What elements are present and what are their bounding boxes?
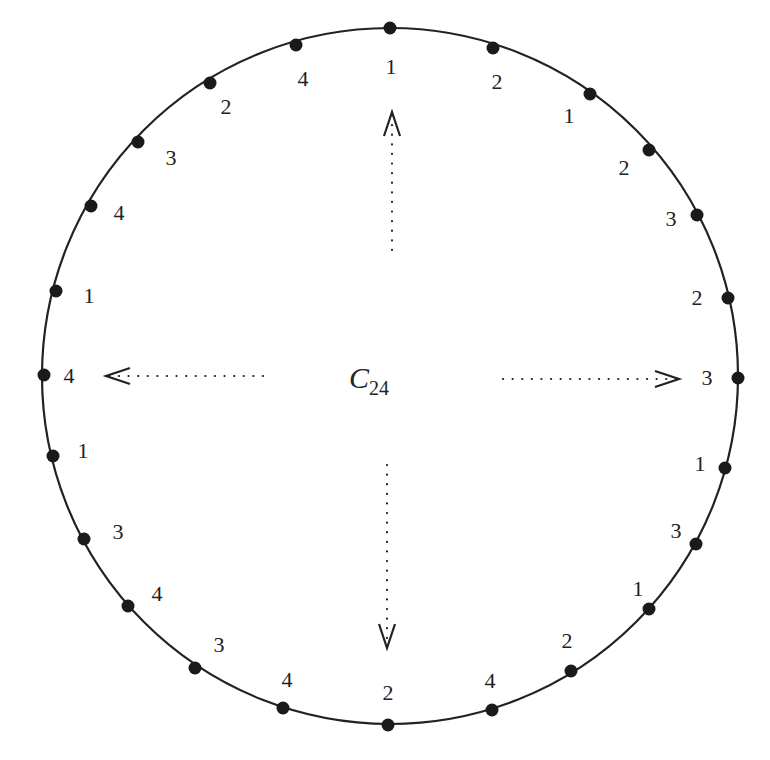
vertex-dot [132,136,145,149]
vertex-dot [277,702,290,715]
vertex-label: 3 [666,208,677,230]
vertex-label: 2 [619,157,630,179]
vertex-dot [204,77,217,90]
vertex-dot [486,704,499,717]
vertex-label: 4 [64,365,75,387]
vertex-dot [719,462,732,475]
vertex-label: 4 [485,670,496,692]
vertex-dot [690,538,703,551]
vertex-label: 4 [282,669,293,691]
vertex-dot [643,144,656,157]
vertex-label: 3 [671,520,682,542]
vertex-dot [382,719,395,732]
vertex-label: 4 [114,202,125,224]
arrow-up [384,112,400,250]
vertex-label: 2 [692,287,703,309]
vertex-dot [290,39,303,52]
vertex-label: 3 [166,147,177,169]
diagram-canvas: 121232313124243431414324 C24 [0,0,770,760]
arrows-group [106,112,679,648]
graph-title-main: C [349,361,369,394]
cycle-circle [42,28,738,724]
vertex-dot [47,450,60,463]
graph-title: C24 [349,361,389,395]
vertex-dot [78,533,91,546]
vertex-label: 4 [152,583,163,605]
vertex-label: 3 [214,634,225,656]
vertex-dot [584,88,597,101]
vertex-label: 2 [492,71,503,93]
vertex-dot [691,209,704,222]
vertex-label: 1 [695,453,706,475]
vertex-dot [643,603,656,616]
arrow-left [106,368,263,384]
vertex-dot [732,372,745,385]
vertex-label: 1 [386,56,397,78]
vertex-label: 4 [298,68,309,90]
vertex-label: 3 [702,367,713,389]
vertex-label: 3 [113,521,124,543]
vertex-label: 1 [84,285,95,307]
vertex-label: 2 [562,630,573,652]
vertex-dot [50,285,63,298]
vertex-dot [487,42,500,55]
vertices-group [38,22,745,732]
vertex-label: 2 [383,682,394,704]
vertex-dot [122,600,135,613]
vertex-dot [38,369,51,382]
vertex-dot [384,22,397,35]
vertex-label: 2 [221,96,232,118]
vertex-dot [565,665,578,678]
vertex-label: 1 [633,578,644,600]
vertex-dot [722,292,735,305]
arrow-right [503,371,679,387]
arrow-down [379,465,395,648]
vertex-dot [189,662,202,675]
vertex-dot [85,200,98,213]
vertex-label: 1 [564,105,575,127]
vertex-label: 1 [78,440,89,462]
graph-title-subscript: 24 [369,377,389,399]
